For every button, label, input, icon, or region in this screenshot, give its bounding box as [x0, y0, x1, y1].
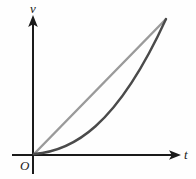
- y-axis-label: v: [30, 1, 36, 16]
- vt-graph-canvas: v t O: [0, 0, 196, 179]
- origin-label: O: [20, 158, 30, 173]
- x-axis-label: t: [184, 147, 188, 162]
- velocity-time-figure: v t O: [0, 0, 196, 179]
